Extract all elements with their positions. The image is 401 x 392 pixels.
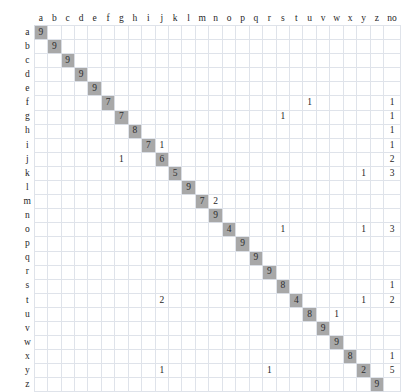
matrix-cell-b-q [249,40,262,54]
matrix-cell-n-o [222,209,235,223]
matrix-cell-j-w [330,152,344,166]
matrix-cell-o-a [34,223,47,237]
matrix-cell-p-e [88,237,101,251]
matrix-cell-p-o [222,237,235,251]
matrix-cell-x-e [88,350,101,364]
matrix-cell-j-z [370,152,383,166]
matrix-cell-l-l: 9 [182,181,195,195]
matrix-cell-j-k [169,152,182,166]
matrix-cell-g-f [101,110,114,124]
matrix-cell-g-h [128,110,141,124]
matrix-cell-f-u: 1 [303,96,316,110]
matrix-cell-g-o [222,110,235,124]
table-row: u81 [21,307,401,321]
matrix-cell-v-c [61,321,74,335]
matrix-cell-d-x [343,68,356,82]
matrix-cell-a-r [263,26,276,40]
matrix-cell-b-i [142,40,155,54]
matrix-cell-b-j [155,40,168,54]
matrix-cell-w-z [370,336,383,350]
column-header-i: i [142,13,155,26]
matrix-cell-r-v [316,265,329,279]
matrix-cell-d-c [61,68,74,82]
matrix-cell-e-k [169,82,182,96]
matrix-cell-n-v [316,209,329,223]
matrix-cell-n-c [61,209,74,223]
matrix-cell-q-r [263,251,276,265]
matrix-cell-t-u [303,293,316,307]
matrix-cell-m-a [34,195,47,209]
matrix-cell-n-k [169,209,182,223]
matrix-cell-l-n [209,181,222,195]
matrix-cell-f-t [290,96,303,110]
matrix-cell-x-b [48,350,61,364]
matrix-cell-j-no: 2 [384,152,401,166]
column-header-s: s [276,13,289,26]
matrix-cell-g-e [88,110,101,124]
matrix-cell-h-n [209,124,222,138]
matrix-cell-q-c [61,251,74,265]
matrix-cell-u-u: 8 [303,307,316,321]
row-header-p: p [21,237,34,251]
matrix-cell-e-b [48,82,61,96]
row-header-a: a [21,26,34,40]
table-row: a9 [21,26,401,40]
matrix-cell-s-k [169,279,182,293]
matrix-cell-l-y [357,181,370,195]
matrix-cell-k-v [316,166,329,180]
matrix-cell-e-o [222,82,235,96]
matrix-cell-r-s [276,265,289,279]
matrix-cell-n-t [290,209,303,223]
matrix-cell-w-u [303,336,316,350]
matrix-cell-n-x [343,209,356,223]
matrix-cell-o-y: 1 [357,223,370,237]
matrix-cell-d-g [115,68,128,82]
matrix-cell-l-g [115,181,128,195]
matrix-cell-j-s [276,152,289,166]
matrix-cell-h-q [249,124,262,138]
matrix-cell-l-no [384,181,401,195]
matrix-cell-l-a [34,181,47,195]
matrix-cell-g-no: 1 [384,110,401,124]
matrix-cell-p-p: 9 [236,237,249,251]
matrix-cell-k-h [128,166,141,180]
row-header-j: j [21,152,34,166]
matrix-cell-e-m [195,82,209,96]
matrix-cell-j-j: 6 [155,152,168,166]
matrix-cell-r-h [128,265,141,279]
matrix-cell-s-q [249,279,262,293]
matrix-cell-v-o [222,321,235,335]
matrix-corner-cell [21,13,34,26]
matrix-cell-o-b [48,223,61,237]
table-row: n9 [21,209,401,223]
matrix-cell-p-s [276,237,289,251]
matrix-cell-l-d [74,181,87,195]
matrix-cell-f-h [128,96,141,110]
matrix-cell-f-g [115,96,128,110]
row-header-b: b [21,40,34,54]
row-header-w: w [21,336,34,350]
matrix-cell-d-v [316,68,329,82]
matrix-cell-c-a [34,54,47,68]
matrix-cell-p-y [357,237,370,251]
matrix-cell-j-q [249,152,262,166]
matrix-cell-o-i [142,223,155,237]
matrix-cell-t-c [61,293,74,307]
column-header-l: l [182,13,195,26]
caption-strip [0,376,401,386]
matrix-cell-c-n [209,54,222,68]
matrix-cell-h-m [195,124,209,138]
column-header-c: c [61,13,74,26]
matrix-cell-q-z [370,251,383,265]
matrix-cell-o-r [263,223,276,237]
matrix-cell-e-x [343,82,356,96]
matrix-cell-i-l [182,138,195,152]
matrix-cell-c-g [115,54,128,68]
matrix-cell-p-k [169,237,182,251]
matrix-cell-m-c [61,195,74,209]
matrix-cell-d-j [155,68,168,82]
row-header-n: n [21,209,34,223]
matrix-cell-u-z [370,307,383,321]
matrix-cell-g-d [74,110,87,124]
matrix-cell-w-r [263,336,276,350]
